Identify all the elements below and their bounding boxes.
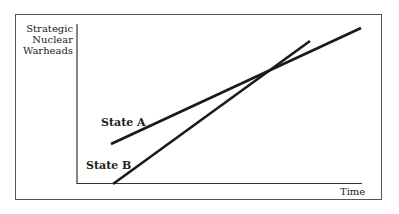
- state-a-label: State A: [101, 116, 146, 129]
- chart-plot: [0, 0, 399, 214]
- state-a-line: [111, 28, 361, 144]
- state-b-label: State B: [86, 159, 131, 172]
- x-axis-label: Time: [340, 186, 365, 197]
- state-b-line: [113, 41, 310, 184]
